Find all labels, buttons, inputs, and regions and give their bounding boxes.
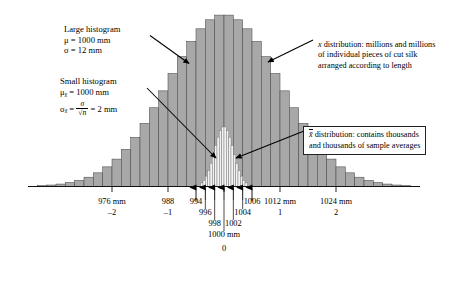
sigma-equals: = [69, 104, 74, 114]
x-distribution-line3: arranged according to length [318, 61, 435, 71]
large-histogram-heading: Large histogram [64, 24, 120, 35]
major-tick-zscore: 2 [316, 208, 356, 217]
arrow-tick-label: 1002 [219, 219, 247, 228]
xbar-distribution-line1: distribution: contains thousands [315, 130, 419, 139]
x-distribution-note: x distribution: millions and millions of… [318, 40, 435, 71]
large-histogram-bar [373, 183, 382, 187]
small-histogram-bar [224, 127, 226, 187]
small-histogram-bar [222, 127, 224, 187]
major-tick-label: 1012 mm [254, 197, 306, 206]
x-distribution-line1: distribution: millions and millions [324, 40, 436, 49]
arrow-tick-label: 1000 mm [198, 230, 250, 239]
small-histogram-bar [240, 176, 242, 186]
major-tick-zscore: 1 [260, 208, 300, 217]
large-histogram-mu: μ = 1000 mm [64, 35, 120, 46]
large-histogram-bar [168, 74, 177, 187]
x-symbol: x [318, 40, 322, 49]
callout-arrow-x-distribution [268, 40, 313, 62]
mu-subscript: x̄ [65, 91, 68, 97]
large-histogram-callout: Large histogram μ = 1000 mm σ = 12 mm [64, 24, 120, 56]
large-histogram-bar [93, 173, 102, 187]
small-histogram-bar [231, 146, 233, 187]
small-histogram-mu: μx̄ = 1000 mm [60, 87, 117, 99]
large-histogram-bar [140, 123, 149, 186]
x-distribution-line2: of individual pieces of cut silk [318, 50, 435, 60]
large-histogram-bar [112, 159, 121, 186]
small-histogram-bar [217, 137, 219, 186]
small-histogram-callout: Small histogram μx̄ = 1000 mm σx̄ = σ √n… [60, 76, 117, 117]
major-tick-label: 976 mm [86, 197, 138, 206]
fraction-denominator: √n [76, 109, 88, 117]
large-histogram-bar [252, 41, 261, 186]
large-histogram-bar [84, 177, 93, 186]
large-histogram-bar [121, 149, 130, 186]
large-histogram-bar [289, 108, 298, 187]
small-histogram-bar [215, 146, 217, 187]
large-histogram-bar [345, 173, 354, 187]
small-histogram-bar [236, 163, 238, 186]
major-tick-label: 988 [142, 197, 194, 206]
small-histogram-heading: Small histogram [60, 76, 117, 87]
figure-canvas: Large histogram μ = 1000 mm σ = 12 mm Sm… [0, 0, 473, 285]
small-histogram-bar [205, 176, 207, 186]
xbar-distribution-box: x̄ distribution: contains thousands and … [303, 126, 426, 155]
xbar-distribution-line2: and thousands of sample averages [309, 141, 420, 152]
large-histogram-bar [149, 108, 158, 187]
callout-arrow-large-histogram [150, 36, 189, 64]
large-histogram-bar [243, 29, 252, 187]
large-histogram-bar [103, 167, 112, 187]
large-histogram-bar [75, 180, 84, 186]
sigma-value: = 2 mm [90, 104, 117, 114]
major-tick-zscore: –2 [92, 208, 132, 217]
small-histogram-sigma: σx̄ = σ √n = 2 mm [60, 100, 117, 116]
mu-value: = 1000 mm [69, 87, 109, 97]
small-histogram-bar [226, 131, 228, 187]
small-histogram-bar [233, 155, 235, 187]
arrow-tick-label: 996 [191, 208, 219, 217]
major-tick-label: 1024 mm [310, 197, 362, 206]
small-histogram-bar [238, 170, 240, 186]
large-histogram-bar [327, 159, 336, 186]
major-tick-zscore: 0 [204, 244, 244, 253]
large-histogram-bar [177, 57, 186, 187]
large-histogram-bar [364, 180, 373, 186]
large-histogram-bar [65, 183, 74, 187]
small-histogram-bar [203, 180, 205, 186]
large-histogram-bar [336, 167, 345, 187]
large-histogram-bar [196, 29, 205, 187]
small-histogram-bar [229, 137, 231, 186]
small-histogram-bar [219, 131, 221, 187]
arrow-tick-label: 1004 [229, 208, 257, 217]
small-histogram-bar [210, 163, 212, 186]
large-histogram-bar [261, 57, 270, 187]
sigma-over-sqrt-n-fraction: σ √n [76, 100, 88, 116]
large-histogram-bar [271, 74, 280, 187]
large-histogram-sigma: σ = 12 mm [64, 45, 120, 56]
small-histogram-bar [243, 180, 245, 186]
xbar-symbol: x̄ [309, 130, 313, 141]
major-tick-zscore: –1 [148, 208, 188, 217]
large-histogram-bar [355, 177, 364, 186]
sigma-subscript: x̄ [65, 109, 68, 115]
small-histogram-bar [208, 170, 210, 186]
large-histogram-bar [131, 137, 140, 186]
small-histogram-bar [212, 155, 214, 187]
